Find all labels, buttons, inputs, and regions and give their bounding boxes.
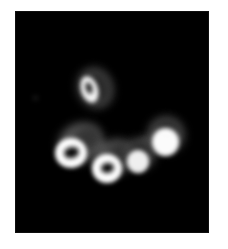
background-speck — [33, 96, 38, 100]
cell-ring — [74, 66, 114, 110]
micrograph-viewport: Fluorescence micrograph Dark-field fluor… — [0, 0, 228, 249]
micrograph-field — [15, 11, 209, 233]
cell-solid — [146, 118, 188, 164]
nucleus-signal — [152, 128, 180, 157]
